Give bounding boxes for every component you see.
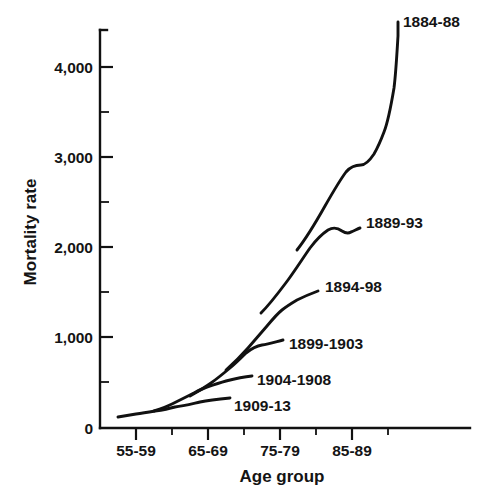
- y-tick-marks: [100, 67, 113, 382]
- x-tick-label-75-79: 75-79: [260, 442, 300, 459]
- series-label-1884-88: 1884-88: [403, 13, 460, 30]
- series-line-1909-13: [118, 398, 230, 417]
- series-label-1904-1908: 1904-1908: [257, 371, 332, 388]
- y-tick-label-3000: 3,000: [54, 149, 93, 166]
- y-tick-label-2000: 2,000: [54, 239, 93, 256]
- x-tick-label-85-89: 85-89: [332, 442, 372, 459]
- y-tick-labels: 4,000 3,000 2,000 1,000 0: [54, 59, 93, 437]
- y-tick-label-0: 0: [84, 420, 93, 437]
- x-axis-title: Age group: [240, 467, 325, 486]
- series-label-1889-93: 1889-93: [366, 214, 423, 231]
- x-tick-label-55-59: 55-59: [116, 442, 156, 459]
- x-tick-label-65-69: 65-69: [188, 442, 228, 459]
- series-line-1889-93: [261, 228, 360, 313]
- series-curves-group: [118, 22, 398, 417]
- y-tick-label-4000: 4,000: [54, 59, 93, 76]
- series-label-1894-98: 1894-98: [325, 278, 382, 295]
- x-tick-marks: [136, 428, 388, 440]
- chart-canvas: 4,000 3,000 2,000 1,000 0 55-59 65-69 75…: [0, 0, 487, 492]
- y-axis-title: Mortality rate: [21, 179, 40, 286]
- mortality-rate-line-chart: 4,000 3,000 2,000 1,000 0 55-59 65-69 75…: [0, 0, 487, 492]
- y-tick-label-1000: 1,000: [54, 329, 93, 346]
- series-label-1899-1903: 1899-1903: [289, 335, 364, 352]
- x-tick-labels: 55-59 65-69 75-79 85-89: [116, 442, 372, 459]
- series-label-1909-13: 1909-13: [234, 397, 291, 414]
- series-labels-group: 1884-88 1889-93 1894-98 1899-1903 1904-1…: [234, 13, 460, 414]
